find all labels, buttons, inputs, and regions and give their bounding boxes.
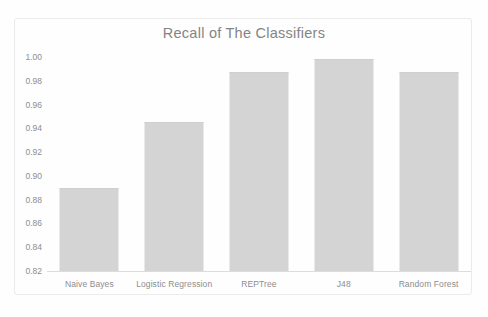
- y-axis-tick-label: 0.88: [2, 195, 42, 205]
- x-axis-category-label: Random Forest: [399, 279, 459, 289]
- y-axis-tick-label: 0.84: [2, 242, 42, 252]
- chart-page: Recall of The Classifiers 1.000.980.960.…: [0, 0, 488, 317]
- y-axis-tick-label: 0.86: [2, 218, 42, 228]
- bar-group: Logistic Regression: [132, 57, 217, 271]
- bar[interactable]: [229, 72, 288, 271]
- bar-group: REPTree: [217, 57, 302, 271]
- bar-group: Random Forest: [386, 57, 471, 271]
- y-axis-tick-label: 0.90: [2, 171, 42, 181]
- x-axis-category-label: J48: [337, 279, 351, 289]
- chart-title: Recall of The Classifiers: [15, 25, 473, 41]
- y-axis-tick-label: 0.96: [2, 100, 42, 110]
- y-axis-tick-label: 0.82: [2, 266, 42, 276]
- x-axis-category-label: Naive Bayes: [65, 279, 114, 289]
- x-axis-category-label: Logistic Regression: [136, 279, 212, 289]
- bar[interactable]: [314, 59, 373, 271]
- x-axis-category-label: REPTree: [241, 279, 276, 289]
- bar[interactable]: [399, 72, 458, 271]
- chart-frame: Recall of The Classifiers 1.000.980.960.…: [14, 18, 472, 295]
- y-axis-tick-label: 0.92: [2, 147, 42, 157]
- bar-group: J48: [301, 57, 386, 271]
- y-axis-tick-label: 0.98: [2, 76, 42, 86]
- y-axis-tick-label: 0.94: [2, 123, 42, 133]
- bar[interactable]: [60, 188, 119, 271]
- plot-area: 1.000.980.960.940.920.900.880.860.840.82…: [47, 57, 471, 271]
- x-axis-line: [47, 271, 471, 272]
- bar-group: Naive Bayes: [47, 57, 132, 271]
- y-axis-tick-label: 1.00: [2, 52, 42, 62]
- bar[interactable]: [145, 122, 204, 271]
